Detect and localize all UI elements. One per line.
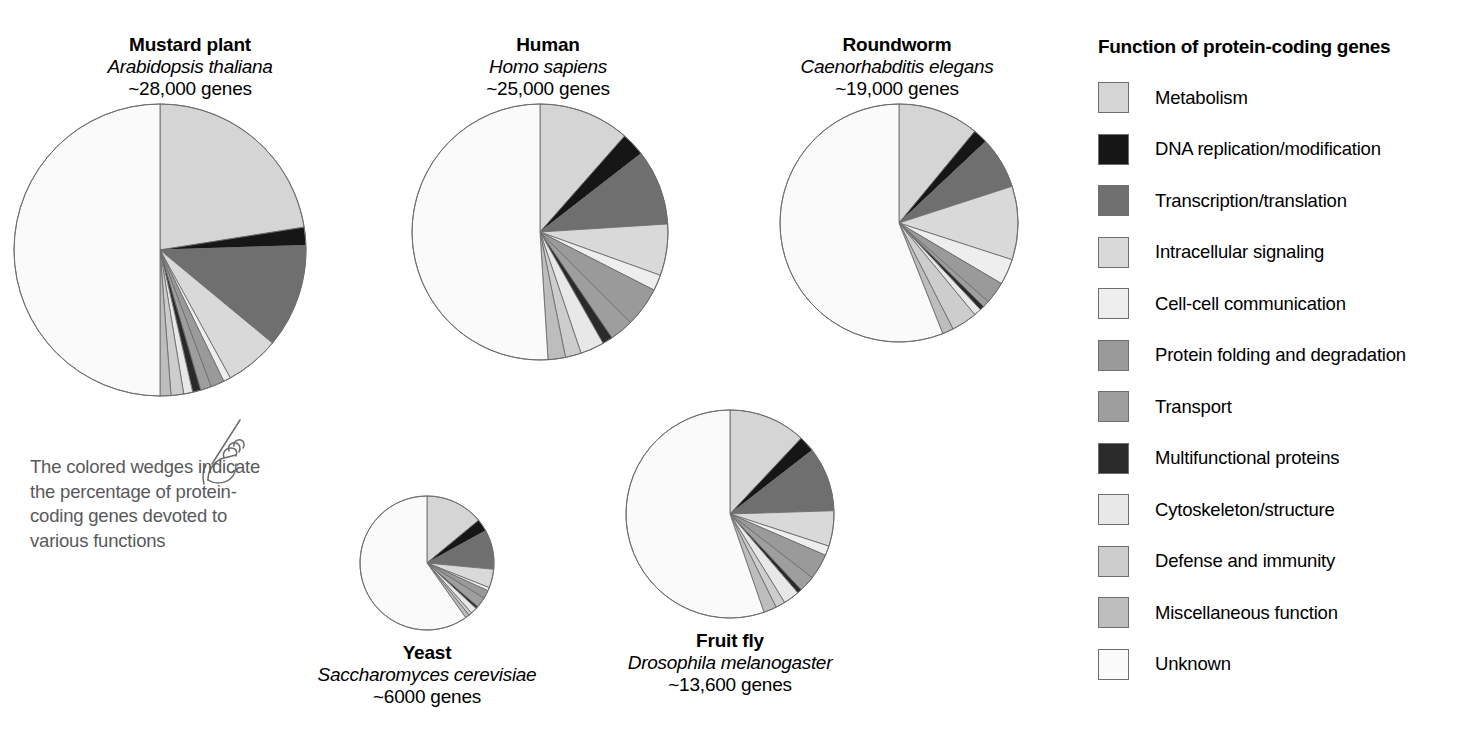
legend-swatch: [1098, 597, 1129, 628]
gene-function-figure: Mustard plant Arabidopsis thaliana ~28,0…: [0, 0, 1472, 740]
legend: Function of protein-coding genes Metabol…: [1098, 36, 1466, 690]
organism-gene-count: ~19,000 genes: [752, 78, 1042, 100]
legend-swatch: [1098, 185, 1129, 216]
organism-gene-count: ~25,000 genes: [408, 78, 688, 100]
organism-common-name: Mustard plant: [10, 34, 370, 56]
pie-holder-fruit-fly: [545, 406, 915, 622]
organism-latin-name: Arabidopsis thaliana: [10, 56, 370, 78]
legend-item[interactable]: Cell-cell communication: [1098, 278, 1466, 330]
annotation-note: The colored wedges indicate the percenta…: [30, 455, 265, 553]
organism-caption-mustard-plant: Mustard plant Arabidopsis thaliana ~28,0…: [10, 34, 370, 100]
organism-caption-human: Human Homo sapiens ~25,000 genes: [408, 34, 688, 100]
legend-swatch: [1098, 134, 1129, 165]
legend-swatch: [1098, 391, 1129, 422]
pie-wedge: [412, 104, 548, 360]
pie-chart-human: [408, 100, 672, 364]
organism-panel-human: Human Homo sapiens ~25,000 genes: [408, 34, 688, 364]
legend-item[interactable]: Intracellular signaling: [1098, 227, 1466, 279]
organism-latin-name: Homo sapiens: [408, 56, 688, 78]
organism-panel-roundworm: Roundworm Caenorhabditis elegans ~19,000…: [752, 34, 1042, 346]
legend-swatch: [1098, 443, 1129, 474]
legend-title: Function of protein-coding genes: [1098, 36, 1466, 58]
legend-swatch: [1098, 494, 1129, 525]
organism-gene-count: ~28,000 genes: [10, 78, 370, 100]
legend-label: Metabolism: [1155, 87, 1248, 109]
legend-swatch: [1098, 288, 1129, 319]
legend-label: Unknown: [1155, 653, 1231, 675]
organism-gene-count: ~13,600 genes: [545, 674, 915, 696]
organism-panel-fruit-fly: Fruit fly Drosophila melanogaster ~13,60…: [545, 406, 915, 696]
pie-chart-roundworm: [776, 100, 1022, 346]
organism-common-name: Roundworm: [752, 34, 1042, 56]
organism-caption-roundworm: Roundworm Caenorhabditis elegans ~19,000…: [752, 34, 1042, 100]
organism-latin-name: Caenorhabditis elegans: [752, 56, 1042, 78]
legend-label: Transcription/translation: [1155, 190, 1347, 212]
legend-item[interactable]: Cytoskeleton/structure: [1098, 484, 1466, 536]
legend-label: Intracellular signaling: [1155, 241, 1324, 263]
legend-item[interactable]: Unknown: [1098, 639, 1466, 691]
organism-caption-fruit-fly: Fruit fly Drosophila melanogaster ~13,60…: [545, 630, 915, 696]
legend-rows: MetabolismDNA replication/modificationTr…: [1098, 72, 1466, 690]
organism-latin-name: Drosophila melanogaster: [545, 652, 915, 674]
pie-chart-fruit-fly: [622, 406, 838, 622]
legend-swatch: [1098, 82, 1129, 113]
legend-item[interactable]: Miscellaneous function: [1098, 587, 1466, 639]
legend-label: Cell-cell communication: [1155, 293, 1346, 315]
legend-swatch: [1098, 340, 1129, 371]
legend-label: Defense and immunity: [1155, 550, 1335, 572]
legend-item[interactable]: Multifunctional proteins: [1098, 433, 1466, 485]
pie-holder-mustard-plant: [10, 100, 370, 400]
legend-item[interactable]: Metabolism: [1098, 72, 1466, 124]
pie-holder-human: [408, 100, 688, 364]
organism-panel-mustard-plant: Mustard plant Arabidopsis thaliana ~28,0…: [10, 34, 370, 400]
legend-item[interactable]: Defense and immunity: [1098, 536, 1466, 588]
legend-label: Multifunctional proteins: [1155, 447, 1339, 469]
pie-holder-roundworm: [752, 100, 1042, 346]
legend-item[interactable]: DNA replication/modification: [1098, 124, 1466, 176]
legend-item[interactable]: Protein folding and degradation: [1098, 330, 1466, 382]
legend-item[interactable]: Transcription/translation: [1098, 175, 1466, 227]
organism-common-name: Fruit fly: [545, 630, 915, 652]
legend-swatch: [1098, 546, 1129, 577]
legend-label: DNA replication/modification: [1155, 138, 1381, 160]
legend-label: Protein folding and degradation: [1155, 344, 1406, 366]
pie-wedge: [14, 104, 160, 396]
organism-common-name: Human: [408, 34, 688, 56]
pie-wedge: [160, 104, 304, 250]
legend-item[interactable]: Transport: [1098, 381, 1466, 433]
legend-label: Miscellaneous function: [1155, 602, 1338, 624]
legend-label: Cytoskeleton/structure: [1155, 499, 1335, 521]
pie-chart-mustard-plant: [10, 100, 310, 400]
pie-chart-yeast: [356, 492, 498, 634]
legend-swatch: [1098, 237, 1129, 268]
legend-label: Transport: [1155, 396, 1232, 418]
legend-swatch: [1098, 649, 1129, 680]
